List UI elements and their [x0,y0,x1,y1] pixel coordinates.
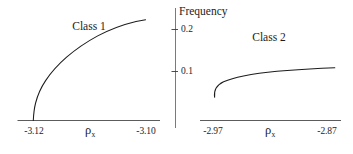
y-tick-label-high: 0.2 [181,25,193,35]
y-tick-label-low: 0.1 [181,67,193,77]
y-axis-group [172,8,179,128]
left-x-tick-label-max: -3.10 [136,127,155,137]
left-plot-title: Class 1 [72,21,106,33]
left-curve [33,20,145,121]
right-plot-title: Class 2 [252,32,286,44]
y-axis-title: Frequency [179,6,228,18]
right-x-tick-label-min: -2.97 [203,127,222,137]
right-x-axis-label: ρx [265,124,275,137]
left-x-tick-label-min: -3.12 [24,127,43,137]
left-x-axis-label: ρx [85,124,95,137]
right-rho-subscript: x [271,130,275,139]
left-rho-subscript: x [91,130,95,139]
figure-container: Class 1 -3.12 ρx -3.10 Frequency 0.2 0.1… [0,0,353,154]
plot-vector-layer [0,0,353,154]
right-x-tick-label-max: -2.87 [317,127,336,137]
left-plot-group [18,20,161,121]
right-curve [214,68,334,98]
right-plot-group [200,68,341,121]
